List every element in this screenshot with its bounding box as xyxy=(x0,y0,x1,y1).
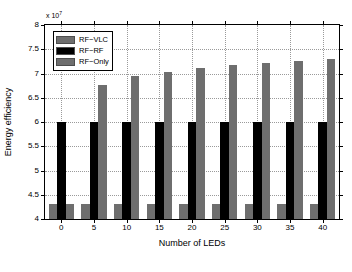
y-axis-tick-mark xyxy=(41,219,45,220)
x-axis-tick-label: 20 xyxy=(188,224,197,232)
x-axis-tick-mark xyxy=(225,21,226,25)
bar-rf-vlc-30 xyxy=(245,204,253,219)
bar-rf-vlc-15 xyxy=(147,204,155,219)
y-axis-title-text: Energy efficiency xyxy=(3,88,13,156)
bar-rf-rf-30 xyxy=(253,122,261,219)
bar-rf-only-25 xyxy=(229,65,237,219)
legend-item: RF−Only xyxy=(56,57,109,67)
bar-rf-rf-35 xyxy=(286,122,294,219)
y-axis-tick-mark xyxy=(41,195,45,196)
legend-label-rf-only: RF−Only xyxy=(79,58,109,66)
bar-rf-only-0 xyxy=(66,204,74,219)
bar-rf-only-15 xyxy=(164,72,172,219)
bar-rf-rf-10 xyxy=(122,122,130,219)
exponent-mantissa: x 10 xyxy=(46,12,59,19)
bar-rf-only-40 xyxy=(327,59,335,219)
figure-canvas: x 107 Energy efficiency Number of LEDs R… xyxy=(0,0,352,272)
y-axis-tick-label: 7 xyxy=(35,70,39,78)
legend-item: RF−RF xyxy=(56,46,109,56)
x-axis-tick-mark xyxy=(61,21,62,25)
bar-rf-only-20 xyxy=(196,68,204,219)
x-axis-title-text: Number of LEDs xyxy=(159,238,226,248)
y-axis-tick-label: 7.5 xyxy=(28,45,39,53)
y-axis-tick-mark xyxy=(339,146,343,147)
legend-label-rf-vlc: RF−VLC xyxy=(79,36,108,44)
x-axis-tick-mark xyxy=(323,21,324,25)
x-axis-tick-label: 25 xyxy=(220,224,229,232)
y-axis-tick-mark xyxy=(339,122,343,123)
plot-area: RF−VLC RF−RF RF−Only 44.555.566.577.5805… xyxy=(44,24,340,220)
bar-rf-vlc-10 xyxy=(114,204,122,219)
y-axis-tick-mark xyxy=(339,49,343,50)
x-axis-tick-label: 35 xyxy=(286,224,295,232)
bar-rf-rf-20 xyxy=(188,122,196,219)
bar-rf-rf-40 xyxy=(318,122,326,219)
bar-rf-vlc-40 xyxy=(310,204,318,219)
x-axis-tick-label: 40 xyxy=(318,224,327,232)
x-axis-tick-mark xyxy=(290,21,291,25)
x-axis-tick-mark xyxy=(127,21,128,25)
y-axis-tick-label: 6 xyxy=(35,118,39,126)
y-axis-tick-mark xyxy=(41,146,45,147)
bar-rf-rf-0 xyxy=(57,122,65,219)
y-axis-tick-mark xyxy=(41,171,45,172)
y-axis-tick-mark xyxy=(339,219,343,220)
legend-item: RF−VLC xyxy=(56,35,109,45)
legend-swatch-rf-vlc xyxy=(56,36,75,44)
legend-swatch-rf-only xyxy=(56,58,75,66)
bar-rf-vlc-0 xyxy=(49,204,57,219)
y-axis-tick-mark xyxy=(41,74,45,75)
y-axis-tick-mark xyxy=(41,25,45,26)
bar-rf-only-5 xyxy=(98,85,106,219)
exponent-power: 7 xyxy=(59,10,62,16)
y-axis-tick-mark xyxy=(41,49,45,50)
x-axis-tick-mark xyxy=(192,21,193,25)
bar-rf-rf-5 xyxy=(90,122,98,219)
y-axis-title: Energy efficiency xyxy=(2,24,14,220)
y-axis-tick-label: 5 xyxy=(35,167,39,175)
y-axis-tick-label: 4 xyxy=(35,215,39,223)
y-axis-tick-mark xyxy=(339,25,343,26)
x-axis-title: Number of LEDs xyxy=(44,238,340,248)
bar-rf-rf-25 xyxy=(220,122,228,219)
y-axis-tick-label: 8 xyxy=(35,21,39,29)
bar-rf-only-35 xyxy=(294,61,302,219)
x-axis-tick-label: 10 xyxy=(122,224,131,232)
y-axis-tick-mark xyxy=(339,98,343,99)
y-axis-exponent-label: x 107 xyxy=(46,10,62,19)
y-axis-tick-mark xyxy=(339,74,343,75)
x-axis-tick-mark xyxy=(94,21,95,25)
bar-rf-only-30 xyxy=(262,63,270,219)
bar-rf-vlc-35 xyxy=(277,204,285,219)
y-axis-tick-mark xyxy=(41,98,45,99)
y-axis-tick-label: 5.5 xyxy=(28,142,39,150)
y-axis-tick-label: 6.5 xyxy=(28,94,39,102)
y-axis-tick-label: 4.5 xyxy=(28,191,39,199)
bar-rf-only-10 xyxy=(131,76,139,219)
x-axis-tick-mark xyxy=(257,21,258,25)
legend-swatch-rf-rf xyxy=(56,47,75,55)
x-axis-tick-label: 5 xyxy=(92,224,96,232)
x-axis-tick-label: 15 xyxy=(155,224,164,232)
chart-legend: RF−VLC RF−RF RF−Only xyxy=(53,31,113,71)
bar-rf-vlc-5 xyxy=(81,204,89,219)
legend-label-rf-rf: RF−RF xyxy=(79,47,103,55)
bar-rf-vlc-20 xyxy=(179,204,187,219)
x-axis-tick-label: 0 xyxy=(59,224,63,232)
y-axis-tick-mark xyxy=(339,195,343,196)
bar-rf-rf-15 xyxy=(155,122,163,219)
y-axis-tick-mark xyxy=(41,122,45,123)
y-axis-tick-mark xyxy=(339,171,343,172)
x-axis-tick-mark xyxy=(159,21,160,25)
x-axis-tick-label: 30 xyxy=(253,224,262,232)
bar-rf-vlc-25 xyxy=(212,204,220,219)
